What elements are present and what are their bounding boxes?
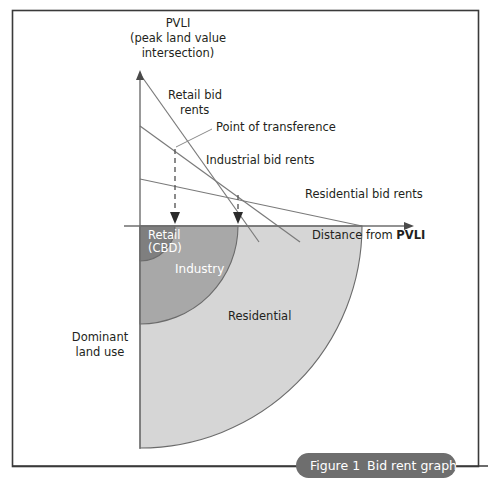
zone-residential-label: Residential [228, 309, 291, 323]
zone-retail-label-line1: Retail [148, 228, 181, 242]
caption-text: Figure 1Bid rent graph [310, 458, 457, 473]
industrial-bid-rents-label: Industrial bid rents [206, 153, 314, 167]
x-axis-label: Distance from PVLI [312, 228, 425, 242]
y-axis-title-line3: intersection) [142, 46, 215, 60]
point-of-transference-label: Point of transference [216, 120, 336, 134]
caption-title: Bid rent graph [367, 458, 457, 473]
dominant-land-use-label-line2: land use [76, 345, 125, 359]
y-axis-title-line2: (peak land value [130, 31, 226, 45]
x-axis-label-plain: Distance from [312, 228, 396, 242]
zone-industry-label: Industry [175, 262, 224, 276]
y-axis-title-line1: PVLI [166, 16, 191, 30]
caption-number: Figure 1 [310, 458, 360, 473]
zone-retail-label-line2: (CBD) [148, 241, 182, 255]
residential-bid-rents-label: Residential bid rents [305, 187, 423, 201]
bid-rent-diagram: PVLI (peak land value intersection) Reta… [0, 0, 491, 496]
x-axis-label-bold: PVLI [396, 228, 425, 242]
figure-container: PVLI (peak land value intersection) Reta… [0, 0, 491, 496]
retail-bid-rents-label-line1: Retail bid [168, 88, 222, 102]
retail-bid-rents-label-line2: rents [180, 103, 209, 117]
dominant-land-use-label-line1: Dominant [72, 330, 129, 344]
